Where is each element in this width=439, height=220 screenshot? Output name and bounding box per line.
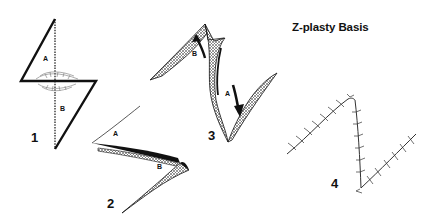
figure-3-flap-rotation <box>150 24 277 142</box>
figure-3-number: 3 <box>208 128 215 143</box>
figure-1-label-a: A <box>43 55 48 62</box>
figure-4-sutured-result <box>287 94 416 193</box>
z-plasty-diagram <box>0 0 439 220</box>
figure-3-label-a: A <box>225 90 230 97</box>
figure-1-number: 1 <box>31 130 38 145</box>
figure-1-label-b: B <box>60 105 65 112</box>
figure-2-label-b: B <box>157 163 162 170</box>
diagram-title: Z-plasty Basis <box>292 21 369 33</box>
figure-2-number: 2 <box>107 196 114 211</box>
figure-2-label-a: A <box>113 130 118 137</box>
figure-4-number: 4 <box>331 176 338 191</box>
figure-3-label-b: B <box>192 50 197 57</box>
